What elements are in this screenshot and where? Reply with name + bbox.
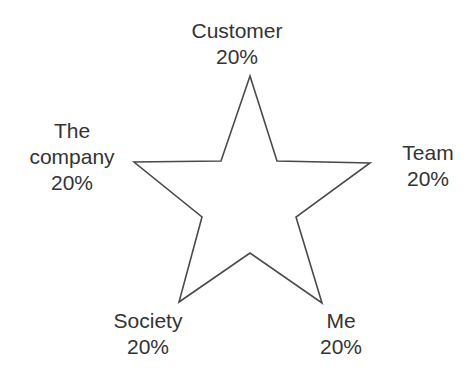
- label-customer: Customer 20%: [0, 18, 474, 70]
- label-the-company-value: 20%: [8, 170, 136, 196]
- label-society-value: 20%: [86, 334, 210, 360]
- star-diagram-canvas: Customer 20% The company 20% Team 20% So…: [0, 0, 474, 384]
- label-team-name: Team: [386, 140, 470, 166]
- label-team: Team 20%: [386, 140, 470, 192]
- label-the-company: The company 20%: [8, 118, 136, 196]
- label-the-company-name-line1: The: [8, 118, 136, 144]
- label-team-value: 20%: [386, 166, 470, 192]
- label-the-company-name-line2: company: [8, 144, 136, 170]
- label-society-name: Society: [86, 308, 210, 334]
- label-customer-value: 20%: [0, 44, 474, 70]
- label-me-name: Me: [288, 308, 394, 334]
- label-me: Me 20%: [288, 308, 394, 360]
- star-polygon: [134, 76, 370, 303]
- label-customer-name: Customer: [0, 18, 474, 44]
- label-society: Society 20%: [86, 308, 210, 360]
- label-me-value: 20%: [288, 334, 394, 360]
